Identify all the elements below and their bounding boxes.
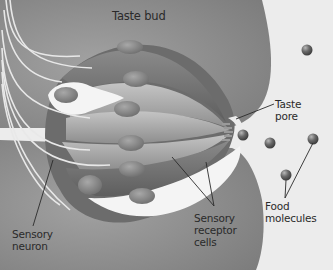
label-food-molecules: Food molecules (265, 200, 317, 224)
label-sensory-neuron: Sensory neuron (12, 228, 53, 252)
label-taste-pore: Taste pore (275, 98, 301, 122)
label-sensory-receptor-cells: Sensory receptor cells (194, 212, 237, 248)
label-taste-bud: Taste bud (112, 10, 166, 22)
taste-bud-diagram: Taste bud Taste pore Sensory neuron Sens… (0, 0, 333, 270)
